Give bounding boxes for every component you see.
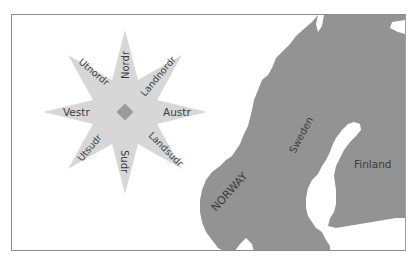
label-austr: Austr — [163, 106, 191, 118]
map-canvas: Nordr Landnordr Austr Landsudr Sudr Utsu… — [0, 0, 416, 262]
label-finland: Finland — [354, 158, 392, 170]
label-sudr: Sudr — [119, 150, 130, 174]
label-nordr: Nordr — [120, 50, 131, 79]
label-vestr: Vestr — [63, 106, 90, 118]
compass-rose: Nordr Landnordr Austr Landsudr Sudr Utsu… — [43, 30, 207, 194]
